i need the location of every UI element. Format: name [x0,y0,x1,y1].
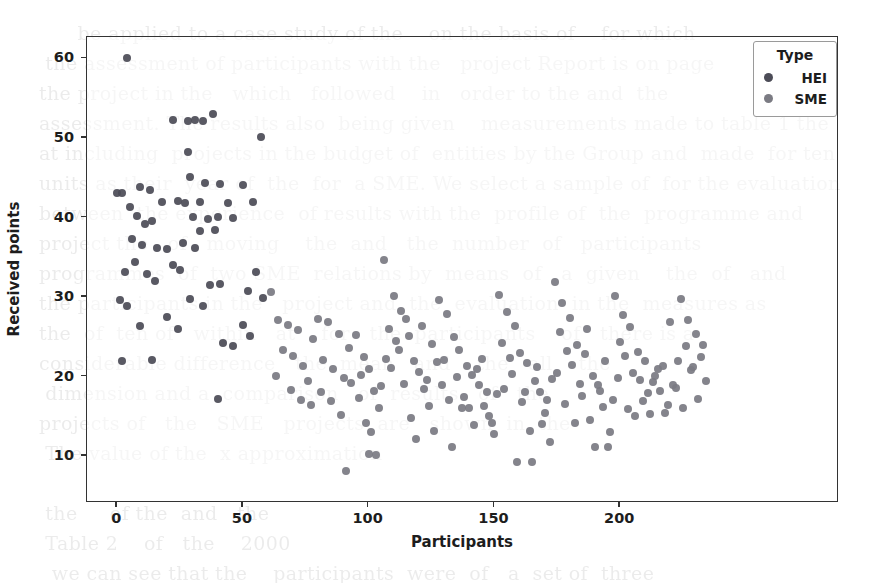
data-point-sme [568,361,576,369]
legend: Type HEI SME [753,41,837,117]
data-point-sme [440,356,448,364]
data-point-hei [123,54,131,62]
legend-item-sme[interactable]: SME [761,88,829,109]
data-point-sme [624,405,632,413]
data-point-sme [400,380,408,388]
data-point-sme [661,409,669,417]
x-tick-mark [115,502,116,507]
x-tick-mark [493,502,494,507]
data-point-sme [626,323,634,331]
data-point-sme [402,315,410,323]
data-point-sme [614,374,622,382]
x-tick-mark [367,502,368,507]
data-point-hei [196,198,204,206]
x-tick-label: 100 [353,510,383,526]
data-point-sme [677,295,685,303]
data-point-hei [174,325,182,333]
data-point-sme [619,311,627,319]
data-point-hei [116,296,124,304]
data-point-sme [430,427,438,435]
data-point-sme [541,409,549,417]
data-point-sme [664,401,672,409]
data-point-sme [488,419,496,427]
data-point-sme [392,337,400,345]
data-point-hei [179,239,187,247]
data-point-sme [337,411,345,419]
data-point-sme [651,372,659,380]
data-point-sme [511,322,519,330]
data-point-sme [639,397,647,405]
data-point-hei [201,179,209,187]
data-point-hei [131,258,139,266]
data-point-sme [448,443,456,451]
legend-label-sme: SME [773,91,829,107]
data-point-hei [246,332,254,340]
data-point-sme [372,451,380,459]
data-point-sme [561,400,569,408]
data-point-hei [239,181,247,189]
data-point-sme [513,458,521,466]
data-point-sme [599,403,607,411]
x-tick-mark [618,502,619,507]
y-tick-label: 20 [54,368,74,384]
data-point-hei [209,110,217,118]
data-point-sme [297,396,305,404]
data-point-hei [151,277,159,285]
data-point-sme [631,412,639,420]
data-point-sme [581,350,589,358]
data-point-hei [224,199,232,207]
data-point-hei [148,217,156,225]
data-point-sme [606,428,614,436]
data-point-sme [319,356,327,364]
data-point-sme [279,346,287,354]
data-point-sme [470,421,478,429]
data-point-sme [546,438,554,446]
data-point-sme [538,420,546,428]
y-tick-mark [81,295,86,296]
data-point-sme [415,368,423,376]
data-point-sme [498,339,506,347]
data-point-hei [163,245,171,253]
data-point-sme [516,349,524,357]
y-tick-label: 10 [54,447,74,463]
data-point-sme [601,357,609,365]
data-point-sme [433,358,441,366]
data-point-hei [143,270,151,278]
data-point-sme [483,388,491,396]
data-point-hei [189,213,197,221]
data-point-sme [445,396,453,404]
data-point-sme [473,365,481,373]
data-point-hei [206,281,214,289]
y-tick-mark [81,454,86,455]
data-point-sme [405,332,413,340]
legend-marker-sme-icon [764,94,773,103]
data-point-sme [536,388,544,396]
data-point-sme [410,357,418,365]
data-point-hei [204,215,212,223]
legend-label-hei: HEI [773,70,829,86]
data-point-sme [596,387,604,395]
data-point-sme [352,331,360,339]
data-point-hei [184,148,192,156]
data-point-hei [216,280,224,288]
data-point-sme [294,326,302,334]
data-point-sme [563,347,571,355]
legend-item-hei[interactable]: HEI [761,67,829,88]
data-point-sme [634,348,642,356]
data-point-hei [211,226,219,234]
data-point-sme [553,369,561,377]
data-point-sme [314,315,322,323]
data-point-sme [365,365,373,373]
data-point-sme [636,376,644,384]
data-point-sme [526,427,534,435]
data-point-sme [407,414,415,422]
data-point-hei [176,266,184,274]
data-point-hei [229,214,237,222]
data-point-hei [126,203,134,211]
data-point-sme [508,370,516,378]
data-point-sme [385,325,393,333]
data-point-sme [480,402,488,410]
data-point-sme [284,321,292,329]
data-point-sme [478,355,486,363]
data-point-sme [659,362,667,370]
